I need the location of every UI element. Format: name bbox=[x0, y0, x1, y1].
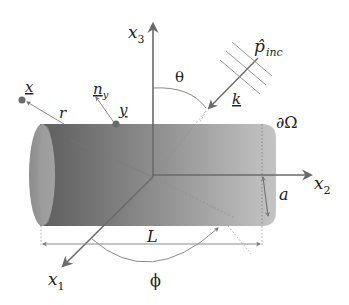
field-geometry bbox=[19, 97, 120, 128]
p-inc-label: p̂inc bbox=[254, 36, 283, 59]
x1-label: x1 bbox=[48, 269, 65, 293]
cylinder-scattering-diagram: x3 θ p̂inc k ∂Ω x2 a L x1 ϕ x r ny y bbox=[0, 0, 349, 305]
theta-arc bbox=[153, 88, 206, 108]
theta-label: θ bbox=[175, 68, 184, 86]
boundary-label: ∂Ω bbox=[276, 113, 298, 132]
distance-label: r bbox=[59, 104, 67, 122]
x2-label: x2 bbox=[314, 173, 331, 197]
wavefront-line bbox=[220, 60, 260, 94]
normal-vector bbox=[96, 97, 115, 124]
radius-label: a bbox=[279, 185, 289, 204]
surface-point-y bbox=[113, 121, 120, 128]
length-label: L bbox=[146, 227, 158, 246]
normal-label: ny bbox=[93, 80, 109, 100]
wavefront-line bbox=[226, 51, 266, 85]
projection-dotted bbox=[228, 226, 252, 255]
field-point-label: x bbox=[25, 78, 34, 96]
phi-label: ϕ bbox=[150, 271, 161, 290]
surface-point-label: y bbox=[118, 101, 128, 119]
field-point-x bbox=[19, 97, 26, 104]
k-label: k bbox=[232, 90, 241, 108]
wave-vector-extension bbox=[200, 111, 206, 122]
x3-label: x3 bbox=[128, 22, 145, 46]
cylinder-cap-shade bbox=[38, 126, 54, 224]
